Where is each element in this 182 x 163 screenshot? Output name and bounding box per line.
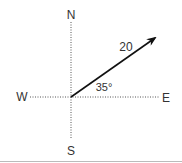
west-label: W: [16, 90, 28, 104]
east-label: E: [162, 91, 170, 105]
vector-arrow: [71, 38, 155, 97]
vector-diagram: N S W E 20 35°: [0, 0, 182, 163]
magnitude-label: 20: [119, 40, 133, 54]
north-label: N: [67, 8, 76, 22]
angle-label: 35°: [96, 81, 113, 93]
south-label: S: [67, 144, 75, 158]
